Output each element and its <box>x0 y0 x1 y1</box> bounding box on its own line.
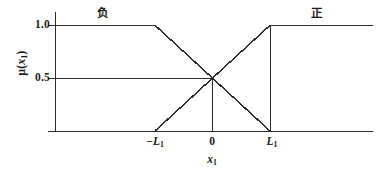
membership-function-figure: 1.0 0.5 μ(x1) 负 正 −L1 0 L1 x1 <box>0 0 383 173</box>
y-axis-title-variable: x <box>14 59 28 65</box>
x-tick-zero-text: 0 <box>209 135 215 147</box>
x-tick-neg-L1-subscript: 1 <box>160 140 164 149</box>
x-axis-title: x1 <box>188 154 236 167</box>
x-tick-L1-text: L <box>267 135 274 147</box>
negative-set-label: 负 <box>78 8 126 20</box>
x-axis-title-subscript: 1 <box>213 158 217 167</box>
x-tick-label-neg-L1: −L1 <box>131 136 179 149</box>
y-axis-title: μ(x1) <box>15 27 29 99</box>
y-axis-title-subscript: 1 <box>20 55 29 59</box>
x-tick-neg-L1-text: −L <box>146 135 160 147</box>
y-axis-title-paren-close: ) <box>14 51 28 55</box>
positive-set-label: 正 <box>292 8 340 20</box>
y-axis-title-mu: μ( <box>14 65 28 76</box>
x-tick-label-zero: 0 <box>188 136 236 148</box>
x-tick-L1-subscript: 1 <box>274 140 278 149</box>
x-tick-label-L1: L1 <box>248 136 296 149</box>
